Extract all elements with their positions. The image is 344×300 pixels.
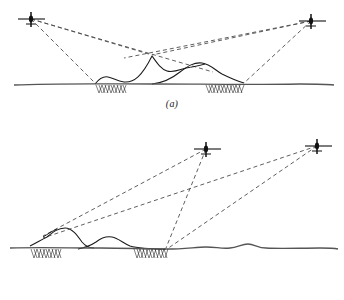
- panel-a-drawing: [0, 0, 344, 100]
- ray-inner-to-shadow-edge: [166, 149, 206, 248]
- aircraft-right: [299, 14, 326, 29]
- terrain-profile-mid: [78, 237, 166, 249]
- ray-group-outer-aircraft: [43, 146, 317, 249]
- shadow-patch-right: [206, 85, 244, 93]
- panel-b: (b): [0, 118, 344, 300]
- ray-group-inner-aircraft: [43, 149, 206, 248]
- ray-outer-to-ridge-crest: [43, 146, 317, 238]
- ray-group-left-aircraft: [31, 19, 213, 83]
- ray-outer-to-shadow-edge: [167, 146, 317, 249]
- ray-inner-to-ridge-crest: [43, 149, 206, 236]
- panel-b-drawing: [0, 118, 344, 278]
- ray-left-to-shadow-start: [31, 19, 95, 83]
- shadow-patch-right: [134, 249, 168, 258]
- ground-line: [14, 84, 334, 85]
- ground-line: [10, 244, 338, 249]
- aircraft-left: [18, 12, 45, 27]
- terrain-profile-left: [30, 228, 94, 248]
- shadow-patch-left: [31, 249, 61, 258]
- shadow-patch-left: [96, 85, 126, 93]
- ray-right-overshoot: [124, 21, 311, 58]
- panel-a: (a): [0, 0, 344, 118]
- ray-group-right-aircraft: [124, 21, 311, 83]
- ray-right-to-shadow-end: [244, 21, 311, 83]
- aircraft-inner: [194, 142, 221, 157]
- figure-root: (a): [0, 0, 344, 300]
- panel-a-caption: (a): [0, 98, 344, 109]
